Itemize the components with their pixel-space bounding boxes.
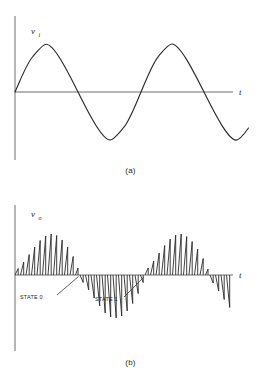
chopped-waveform-output <box>15 234 230 318</box>
panel-a-x-label: t <box>239 87 242 97</box>
panel-b-x-label: t <box>239 270 242 280</box>
panel-a-plot: v i t <box>0 0 261 191</box>
panel-b: v o t STATE 0 STATE 1 <box>0 191 261 382</box>
state-0-leader-line <box>57 277 79 296</box>
panel-a-y-label-subscript: i <box>39 32 41 38</box>
panel-b-y-label-subscript: o <box>39 215 42 221</box>
panel-b-plot: v o t STATE 0 STATE 1 <box>0 191 261 382</box>
panel-a-y-label: v <box>31 26 35 36</box>
panel-b-caption: (b) <box>0 358 261 367</box>
state-0-label: STATE 0 <box>20 294 43 300</box>
figure-container: v i t (a) <box>0 0 261 382</box>
panel-b-y-label: v <box>31 209 35 219</box>
state-1-label: STATE 1 <box>95 296 118 302</box>
panel-a-caption: (a) <box>0 166 261 175</box>
panel-a: v i t <box>0 0 261 191</box>
